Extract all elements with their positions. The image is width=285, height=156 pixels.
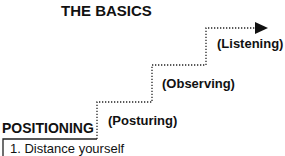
positioning-label: POSITIONING (2, 120, 94, 136)
list-item: 1. Distance yourself (10, 141, 124, 156)
step-observing-label: (Observing) (162, 76, 235, 91)
arrow-head-icon (255, 22, 268, 34)
step-listening-label: (Listening) (217, 36, 283, 51)
step-posturing-label: (Posturing) (108, 113, 177, 128)
